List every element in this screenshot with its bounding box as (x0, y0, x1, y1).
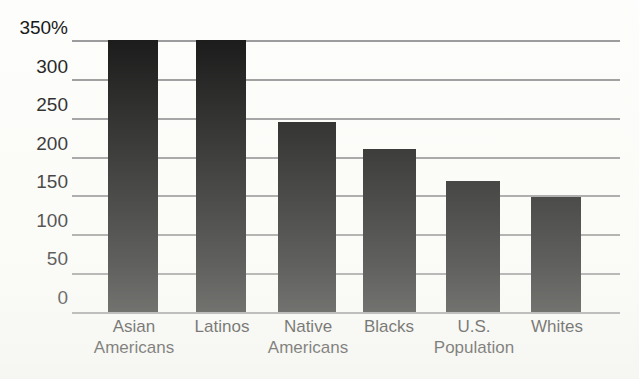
y-tick-label-350: 350% (4, 18, 68, 38)
x-tick-line2: Population (422, 337, 526, 358)
x-tick-line1: Latinos (195, 317, 250, 336)
y-tick-label-250: 250 (4, 95, 68, 115)
bar-asian-americans (108, 40, 158, 312)
x-tick-line2: Americans (82, 337, 186, 358)
x-tick-label-latinos: Latinos (178, 316, 266, 337)
x-tick-line1: Asian (113, 317, 156, 336)
y-tick-label-50: 50 (4, 249, 68, 269)
x-tick-line1: Blacks (364, 317, 414, 336)
bar-native-americans (278, 122, 336, 312)
x-tick-line1: Whites (531, 317, 583, 336)
x-tick-label-blacks: Blacks (349, 316, 429, 337)
bars-layer (72, 40, 620, 312)
plot-area (72, 40, 620, 312)
x-tick-label-native-americans: Native Americans (256, 316, 360, 358)
x-tick-label-asian-americans: Asian Americans (82, 316, 186, 358)
bar-whites (531, 197, 581, 312)
x-tick-line2: Americans (256, 337, 360, 358)
bar-blacks (363, 149, 416, 312)
x-tick-label-us-population: U.S. Population (422, 316, 526, 358)
y-tick-label-300: 300 (4, 57, 68, 77)
y-tick-label-0: 0 (4, 288, 68, 308)
bar-latinos (196, 40, 246, 312)
gridline-0-baseline (72, 312, 620, 314)
x-tick-line1: Native (284, 317, 332, 336)
x-axis: Asian Americans Latinos Native Americans… (72, 316, 620, 372)
x-tick-line1: U.S. (457, 317, 490, 336)
y-tick-label-100: 100 (4, 211, 68, 231)
y-axis: 350% 300 250 200 150 100 50 0 (0, 40, 68, 312)
y-tick-label-200: 200 (4, 134, 68, 154)
bar-chart-figure: 350% 300 250 200 150 100 50 0 Asian Amer… (0, 0, 639, 379)
bar-us-population (446, 181, 500, 312)
x-tick-label-whites: Whites (515, 316, 599, 337)
y-tick-label-150: 150 (4, 172, 68, 192)
